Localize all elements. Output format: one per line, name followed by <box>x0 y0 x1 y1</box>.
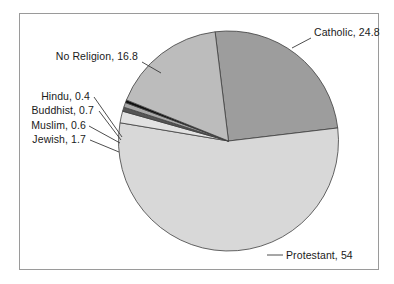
slice-label-muslim: Muslim, 0.6 <box>18 119 86 131</box>
slice-label-catholic: Catholic, 24.8 <box>314 26 380 38</box>
pie-slice-catholic[interactable] <box>215 31 338 141</box>
slice-label-no-religion: No Religion, 16.8 <box>34 50 138 62</box>
pie-chart-page: Catholic, 24.8 Protestant, 54 No Religio… <box>0 0 394 284</box>
slice-label-hindu: Hindu, 0.4 <box>26 90 90 102</box>
pie-slice-protestant[interactable] <box>118 123 338 251</box>
slice-label-protestant: Protestant, 54 <box>286 249 353 261</box>
slice-label-buddhist: Buddhist, 0.7 <box>10 104 94 116</box>
slice-label-jewish: Jewish, 1.7 <box>20 133 86 145</box>
leader-line-muslim <box>89 126 120 143</box>
pie-slices-group <box>118 31 338 251</box>
leader-line-buddhist <box>99 111 121 140</box>
leader-line-catholic <box>292 38 311 48</box>
leader-line-jewish <box>90 140 119 152</box>
